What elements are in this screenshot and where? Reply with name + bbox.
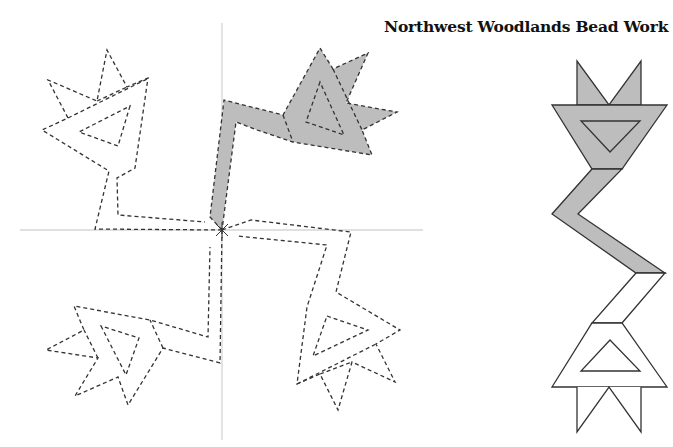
motif-copy-lower-left: [46, 230, 222, 405]
lower-band: [592, 273, 665, 323]
top-points: [577, 61, 641, 105]
bead-work-diagram: [0, 0, 673, 447]
motif-copy-upper-left: [42, 50, 222, 230]
motif-copy-upper-right: [210, 48, 397, 230]
motif-copy-lower-right: [222, 220, 400, 410]
shaded-band: [552, 169, 665, 273]
bottom-points: [577, 387, 641, 432]
original-motif: [552, 61, 667, 432]
